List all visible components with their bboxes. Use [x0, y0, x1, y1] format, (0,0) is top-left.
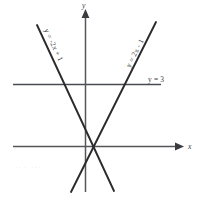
label-line-horizontal: y = 3 [148, 75, 164, 84]
y-axis-label: y [81, 1, 86, 10]
x-axis-label: x [187, 142, 192, 151]
scan-artifact-smudge: · · · · · · [15, 164, 41, 171]
line-negative-slope [37, 25, 114, 191]
x-axis-arrow-icon [175, 143, 184, 151]
line-positive-slope [71, 22, 156, 192]
y-axis-arrow-icon [82, 9, 90, 18]
graph-figure: y = -2x + 1 y = 2x - 1 y = 3 x y · · · ·… [0, 0, 200, 202]
